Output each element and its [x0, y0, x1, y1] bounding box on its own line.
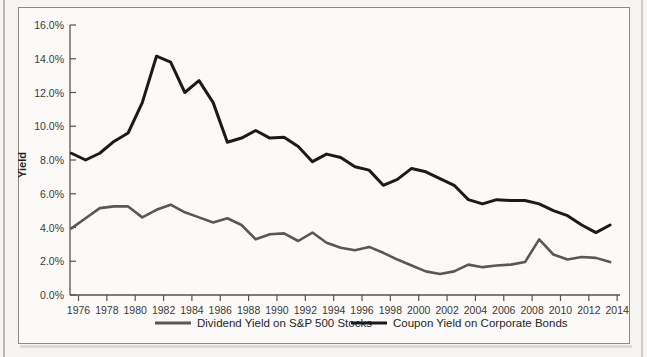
- x-tick-label: 1984: [180, 304, 204, 316]
- y-tick-label: 8.0%: [40, 154, 64, 166]
- y-tick-label: 12.0%: [34, 87, 64, 99]
- y-tick-label: 16.0%: [34, 19, 64, 31]
- x-tick-label: 2010: [549, 304, 573, 316]
- series-group: [71, 56, 610, 274]
- yield-line-chart: 0.0%2.0%4.0%6.0%8.0%10.0%12.0%14.0%16.0%…: [0, 0, 647, 357]
- x-tick-label: 1998: [379, 304, 403, 316]
- x-tick-label: 1994: [322, 304, 346, 316]
- x-tick-label: 1976: [67, 304, 91, 316]
- x-tick-label: 2000: [407, 304, 431, 316]
- x-tick-label: 1988: [237, 304, 261, 316]
- x-tick-label: 1986: [209, 304, 233, 316]
- x-tick-label: 2008: [520, 304, 544, 316]
- x-tick-label: 2004: [464, 304, 488, 316]
- y-tick-label: 14.0%: [34, 53, 64, 65]
- x-tick-label: 2002: [435, 304, 459, 316]
- series-line: [71, 56, 610, 232]
- chart-legend: Dividend Yield on S&P 500 StocksCoupon Y…: [155, 317, 568, 329]
- x-tick-group: 1976197819801982198419861988199019921994…: [67, 295, 629, 316]
- x-tick-label: 2012: [577, 304, 601, 316]
- y-tick-label: 0.0%: [40, 289, 64, 301]
- y-tick-label: 2.0%: [40, 255, 64, 267]
- x-tick-label: 1978: [95, 304, 119, 316]
- x-tick-label: 1996: [350, 304, 374, 316]
- series-line: [71, 205, 610, 274]
- y-tick-label: 4.0%: [40, 222, 64, 234]
- y-axis-label: Yield: [16, 152, 28, 178]
- x-tick-label: 2006: [492, 304, 516, 316]
- y-tick-label: 10.0%: [34, 120, 64, 132]
- x-tick-label: 2014: [605, 304, 629, 316]
- x-tick-label: 1990: [265, 304, 289, 316]
- legend-label: Coupon Yield on Corporate Bonds: [393, 317, 568, 329]
- x-tick-label: 1982: [152, 304, 176, 316]
- page-background: 0.0%2.0%4.0%6.0%8.0%10.0%12.0%14.0%16.0%…: [0, 0, 647, 357]
- y-tick-label: 6.0%: [40, 188, 64, 200]
- x-tick-label: 1980: [124, 304, 148, 316]
- legend-label: Dividend Yield on S&P 500 Stocks: [197, 317, 372, 329]
- x-tick-label: 1992: [294, 304, 318, 316]
